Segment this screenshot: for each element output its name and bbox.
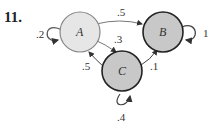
edge-label-c-b: .1: [150, 60, 158, 72]
node-c: C: [102, 51, 142, 91]
edge-label-a-c: .3: [114, 33, 123, 45]
edge-a-b: [96, 21, 142, 24]
markov-chain-diagram: .2 .5 .3 .5 .1 1 .4 A B C: [0, 0, 219, 133]
node-a: A: [60, 12, 100, 52]
node-a-label: A: [75, 25, 84, 39]
edge-b-b: [182, 26, 195, 41]
edge-label-b-b: 1: [203, 27, 209, 39]
node-c-label: C: [118, 64, 127, 78]
edge-label-c-a: .5: [82, 60, 91, 72]
edge-c-c: [117, 94, 130, 105]
edge-a-c: [95, 40, 116, 52]
edge-c-a: [89, 52, 104, 67]
node-b: B: [143, 12, 183, 52]
edge-label-a-a: .2: [36, 28, 44, 40]
node-b-label: B: [159, 25, 167, 39]
edge-label-c-c: .4: [117, 111, 126, 123]
edge-label-a-b: .5: [117, 6, 126, 18]
